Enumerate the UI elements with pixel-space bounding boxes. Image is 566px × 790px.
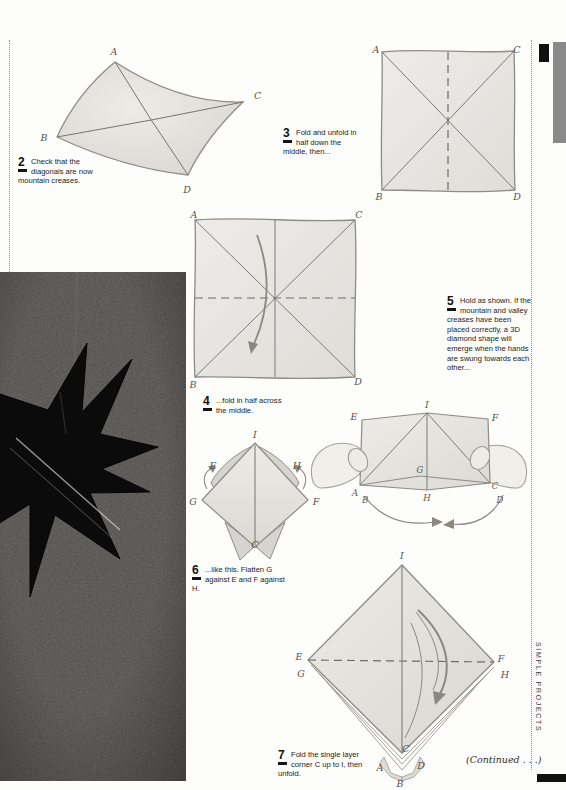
bottom-black-tab xyxy=(537,774,566,782)
step-6-caption: 6 ...like this. Flatten G against E and … xyxy=(192,565,287,594)
corner-label: A xyxy=(110,46,118,57)
step-7-caption: 7 Fold the single layer corner C up to I… xyxy=(278,750,364,779)
corner-label: C xyxy=(254,90,262,101)
corner-label: D xyxy=(353,376,362,387)
step-dash xyxy=(203,408,212,411)
corner-label: F xyxy=(312,496,320,507)
step-2-caption: 2 Check that the diagonals are now mount… xyxy=(18,157,96,186)
corner-label: H xyxy=(292,460,302,471)
left-dotted-rule xyxy=(9,40,10,272)
step-number: 5 xyxy=(447,296,456,311)
corner-label: C xyxy=(492,481,499,491)
step-number: 4 xyxy=(203,396,212,411)
flatten-arrow xyxy=(298,468,306,489)
paper-diamond xyxy=(308,565,494,753)
swing-arrow xyxy=(452,495,503,524)
corner-label: D xyxy=(182,184,191,195)
step-number: 7 xyxy=(278,750,287,765)
diagram-step-5: I E F G A B H C D xyxy=(298,398,540,540)
corner-label: I xyxy=(399,550,404,561)
corner-label: G xyxy=(189,496,197,507)
step-text: Check that the diagonals are now mountai… xyxy=(18,157,93,185)
step-3-caption: 3 Fold and unfold in half down the middl… xyxy=(283,128,363,157)
step-text: ...fold in half across the middle. xyxy=(216,396,281,415)
step-dash xyxy=(283,140,292,143)
diagram-step-3: A C B D xyxy=(368,40,523,202)
step-dash xyxy=(278,762,287,765)
corner-label: A xyxy=(190,209,198,220)
step-number: 3 xyxy=(283,128,292,143)
corner-label: B xyxy=(40,132,48,143)
corner-label: I xyxy=(252,429,257,440)
step-4-caption: 4 ...fold in half across the middle. xyxy=(203,396,291,415)
top-gray-tab xyxy=(553,42,566,143)
flatten-arrow xyxy=(204,468,212,489)
step-dash xyxy=(192,577,201,580)
corner-label: B xyxy=(375,191,383,202)
corner-label: H xyxy=(500,669,510,680)
top-black-tab xyxy=(539,44,549,62)
corner-label: E xyxy=(209,460,217,471)
corner-label: G xyxy=(297,668,305,679)
corner-label: E xyxy=(295,651,303,662)
diagram-step-4: A C B D xyxy=(190,208,370,390)
corner-label: G xyxy=(417,465,424,475)
corner-label: D xyxy=(496,495,504,505)
section-tab-label: SIMPLE PROJECTS xyxy=(535,642,542,772)
corner-label: I xyxy=(424,399,429,410)
paper-sheet xyxy=(360,413,490,490)
step-dash xyxy=(18,169,27,172)
swing-arrowhead xyxy=(443,519,454,529)
step-text: ...like this. Flatten G against E and F … xyxy=(192,565,285,593)
corner-label: F xyxy=(491,412,499,423)
continued-note: (Continued . . .) xyxy=(466,754,541,765)
corner-label: E xyxy=(350,411,358,422)
corner-label: C xyxy=(355,209,363,220)
step-text: Fold and unfold in half down the middle,… xyxy=(283,128,356,156)
book-page: A C B D A C B D xyxy=(0,0,566,790)
corner-label: A xyxy=(351,488,358,498)
corner-label: B xyxy=(396,778,404,788)
corner-label: A xyxy=(376,762,384,773)
corner-label: B xyxy=(190,379,197,390)
step-5-caption: 5 Hold as shown. If the mountain and val… xyxy=(447,296,531,373)
step-text: Hold as shown. If the mountain and valle… xyxy=(447,296,531,372)
step-dash xyxy=(447,308,456,311)
corner-label: C xyxy=(402,743,410,754)
step-number: 6 xyxy=(192,565,201,580)
corner-label: A xyxy=(372,44,380,55)
corner-label: H xyxy=(422,493,431,503)
origami-photo xyxy=(0,272,186,781)
corner-label: D xyxy=(512,191,521,202)
corner-label: F xyxy=(497,653,505,664)
corner-label: C xyxy=(513,44,521,55)
step-number: 2 xyxy=(18,157,27,172)
step-text: Fold the single layer corner C up to I, … xyxy=(278,750,362,778)
corner-label: D xyxy=(416,760,425,771)
swing-arrowhead xyxy=(432,517,443,527)
corner-label: B xyxy=(361,495,368,505)
